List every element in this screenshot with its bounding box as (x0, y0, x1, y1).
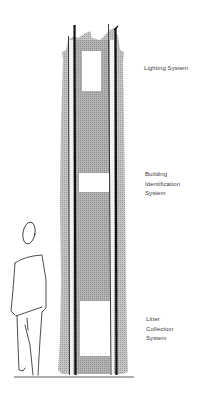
human-figure (11, 221, 46, 375)
figure-head (21, 221, 37, 245)
litter-window (80, 301, 110, 356)
label-building-identification-system: Building Identification System (145, 170, 180, 199)
pole-outline-thick-left (75, 25, 76, 375)
label-litter-collection-system: Litter Collection System (146, 315, 173, 344)
lighting-window (82, 51, 101, 91)
pole-outline-thick-right (116, 28, 117, 375)
building-id-window (79, 173, 109, 192)
pole-diagram (0, 0, 208, 397)
label-lighting-system: Lighting System (144, 64, 188, 74)
